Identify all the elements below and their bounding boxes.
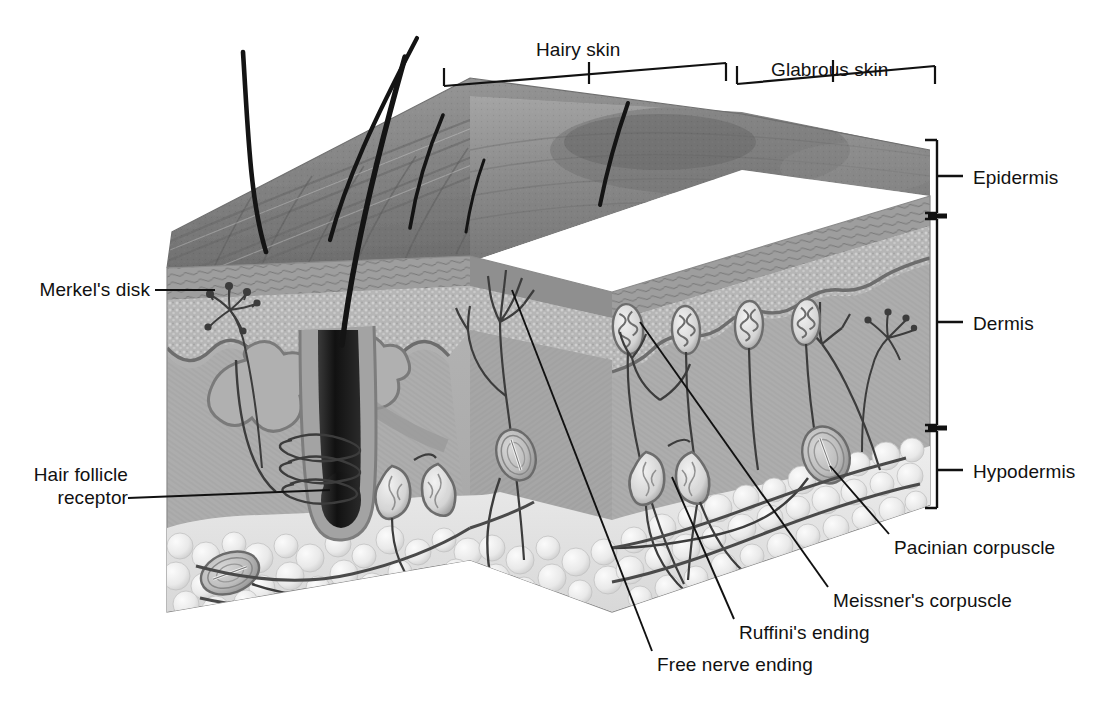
right-bracket-group <box>925 140 963 508</box>
label-hypodermis: Hypodermis <box>973 460 1075 483</box>
label-merkels-disk: Merkel's disk <box>0 278 150 301</box>
label-free-nerve-ending: Free nerve ending <box>657 653 813 676</box>
label-meissners-corpuscle: Meissner's corpuscle <box>833 589 1012 612</box>
label-epidermis: Epidermis <box>973 166 1058 189</box>
bracket-hairy-skin <box>444 62 726 86</box>
label-dermis: Dermis <box>973 312 1034 335</box>
label-pacinian-corpuscle: Pacinian corpuscle <box>894 536 1055 559</box>
bracket-dermis <box>925 219 963 425</box>
bracket-hypodermis <box>925 431 963 508</box>
skin-diagram-figure: Merkel's disk Hair follicle receptor Pac… <box>0 0 1106 709</box>
label-ruffinis-ending: Ruffini's ending <box>739 621 870 644</box>
bracket-epidermis <box>925 140 963 213</box>
label-glabrous-skin: Glabrous skin <box>771 58 888 81</box>
label-hairy-skin: Hairy skin <box>536 38 620 61</box>
label-hair-follicle-receptor: Hair follicle receptor <box>0 463 128 509</box>
